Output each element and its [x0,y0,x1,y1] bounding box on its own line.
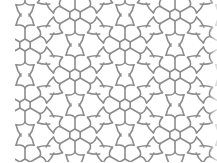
petal-arm [88,0,91,7]
petal-edge [38,86,50,88]
petal-arm [153,6,160,12]
petal-arm [66,152,75,155]
petal-arm [38,147,41,156]
petal-arm [38,27,41,36]
petal-edge [50,153,62,155]
petal-edge [166,104,171,115]
petal-edge [188,93,200,95]
petal-edge [100,63,112,65]
rosette-spoke [30,97,40,103]
petal-arm [166,32,175,35]
petal-arm [66,115,75,118]
petal-edge [38,146,50,148]
rosette-hexagon [120,99,130,111]
rosette-spoke [30,48,40,54]
petal-arm [40,156,47,162]
petal-edge [38,3,50,5]
petal-arm [38,54,41,63]
petal-arm [88,84,91,93]
petal-arm [40,107,47,113]
petal-arm [188,57,191,66]
petal-edge [88,56,100,58]
rosette-spoke [110,48,120,54]
petal-arm [90,66,97,72]
petal-edge [150,56,162,58]
petal-arm [16,25,25,28]
rosette-spoke [180,18,190,24]
petal-arm [190,6,197,12]
petal-arm [53,17,60,23]
petal-arm [88,57,91,66]
right-edge-fade [209,0,217,162]
rosette-hexagon [70,9,80,21]
petal-arm [109,54,112,63]
rosette-spoke [80,67,90,73]
petal-edge [16,14,21,25]
petal-arm [25,85,34,88]
petal-arm [125,122,134,125]
petal-arm [66,55,75,58]
petal-arm [88,117,91,126]
petal-arm [140,156,147,162]
petal-edge [138,63,150,65]
petal-arm [138,114,141,123]
rosette-spoke [60,127,70,133]
petal-edge [188,153,200,155]
petal-edge [100,3,112,5]
petal-edge [38,123,50,125]
petal-arm [153,77,160,83]
rosette-group [0,0,217,162]
petal-edge [29,74,34,85]
petal-edge [79,104,84,115]
petal-arm [138,27,141,36]
petal-arm [125,2,134,5]
petal-edge [150,33,162,35]
petal-arm [159,117,162,126]
petal-arm [125,145,134,148]
petal-arm [103,107,110,113]
petal-arm [175,115,184,118]
petal-arm [138,54,141,63]
rosette-spoke [80,7,90,13]
petal-arm [140,107,147,113]
petal-edge [66,104,71,115]
petal-arm [38,87,41,96]
petal-arm [53,137,60,143]
petal-edge [188,116,200,118]
rosette-hexagon [170,9,180,21]
petal-arm [59,24,62,33]
rosette-spoke [160,7,170,13]
petal-arm [116,122,125,125]
rosette-hexagon [70,69,80,81]
petal-edge [50,56,62,58]
rosette-tiling-pattern [0,0,217,162]
petal-arm [166,152,175,155]
petal-edge [16,134,21,145]
rosette-hexagon [120,39,130,51]
petal-arm [175,32,184,35]
petal-arm [90,126,97,132]
petal-arm [59,144,62,153]
petal-edge [129,14,134,25]
petal-edge [66,44,71,55]
petal-arm [16,85,25,88]
rosette-spoke [30,37,40,43]
petal-arm [25,25,34,28]
petal-arm [109,27,112,36]
petal-arm [188,117,191,126]
petal-arm [125,62,134,65]
pattern-canvas: Geometric rosette tiling pattern [0,0,217,162]
petal-edge [50,33,62,35]
rosette-spoke [130,157,140,163]
rosette-spoke [80,18,90,24]
petal-arm [125,25,134,28]
petal-arm [116,85,125,88]
petal-arm [90,6,97,12]
petal-arm [40,47,47,53]
petal-arm [88,144,91,153]
petal-arm [16,2,25,5]
petal-arm [188,84,191,93]
rosette-spoke [160,138,170,144]
petal-edge [188,33,200,35]
petal-arm [190,66,197,72]
